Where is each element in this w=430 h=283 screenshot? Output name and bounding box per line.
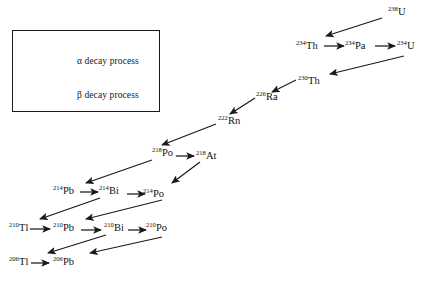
nuclide-symbol-tl206: Tl <box>19 256 29 267</box>
nuclide-symbol-po214: Po <box>153 188 164 199</box>
nuclide-u238: 238U <box>388 7 406 18</box>
nuclide-mass-tl210: 210 <box>9 221 19 228</box>
nuclide-symbol-ra226: Ra <box>266 91 278 102</box>
nuclide-mass-pb206: 206 <box>53 255 63 262</box>
nuclide-po214: 214Po <box>143 189 164 200</box>
decay-arrow-alpha-at218-to-po214 <box>172 162 200 183</box>
decay-chain-diagram: α decay processβ decay process 238U234Th… <box>0 0 430 283</box>
nuclide-symbol-u234: U <box>407 40 415 51</box>
nuclide-symbol-pb214: Pb <box>63 185 74 196</box>
nuclide-tl210: 210Tl <box>9 223 28 234</box>
nuclide-symbol-th234: Th <box>306 40 318 51</box>
legend-label-alpha: α decay process <box>77 56 139 66</box>
nuclide-mass-pb214: 214 <box>53 184 63 191</box>
nuclide-symbol-pa234: Pa <box>355 40 366 51</box>
nuclide-po210: 210Po <box>146 223 167 234</box>
nuclide-mass-th234: 234 <box>296 39 306 46</box>
nuclide-symbol-po218: Po <box>162 147 173 158</box>
nuclide-mass-u234: 234 <box>397 39 407 46</box>
decay-arrow-alpha-bi214-to-tl210 <box>40 198 100 219</box>
nuclide-bi214: 214Bi <box>99 186 119 197</box>
nuclide-pa234: 234Pa <box>345 41 366 52</box>
nuclide-u234: 234U <box>397 41 415 52</box>
nuclide-pb214: 214Pb <box>53 186 74 197</box>
nuclide-mass-th230: 230 <box>298 74 308 81</box>
nuclide-ra226: 226Ra <box>256 92 278 103</box>
nuclide-mass-bi214: 214 <box>99 184 109 191</box>
nuclide-symbol-rn222: Rn <box>228 115 240 126</box>
nuclide-at218: 218At <box>196 151 217 162</box>
nuclide-mass-u238: 238 <box>388 5 398 12</box>
nuclide-symbol-tl210: Tl <box>19 222 29 233</box>
decay-arrow-alpha-bi210-to-tl206 <box>48 235 106 253</box>
decay-arrow-alpha-u234-to-th230 <box>330 56 404 74</box>
nuclide-symbol-po210: Po <box>156 222 167 233</box>
nuclide-symbol-bi210: Bi <box>114 222 124 233</box>
nuclide-mass-po218: 218 <box>152 146 162 153</box>
decay-arrow-alpha-po218-to-pb214 <box>86 160 152 183</box>
nuclide-mass-bi210: 210 <box>104 221 114 228</box>
nuclide-symbol-at218: At <box>206 150 217 161</box>
nuclide-mass-po210: 210 <box>146 221 156 228</box>
nuclide-mass-pa234: 234 <box>345 39 355 46</box>
nuclide-mass-pb210: 210 <box>53 221 63 228</box>
nuclide-tl206: 206Tl <box>9 257 28 268</box>
nuclide-symbol-th230: Th <box>308 75 320 86</box>
nuclide-mass-rn222: 222 <box>218 114 228 121</box>
nuclide-symbol-u238: U <box>398 6 406 17</box>
nuclide-mass-at218: 218 <box>196 149 206 156</box>
nuclide-pb206: 206Pb <box>53 257 74 268</box>
decay-arrow-alpha-po214-to-pb210 <box>86 200 162 219</box>
nuclide-symbol-pb206: Pb <box>63 256 74 267</box>
nuclide-mass-tl206: 206 <box>9 255 19 262</box>
nuclide-rn222: 222Rn <box>218 116 240 127</box>
decay-arrow-alpha-u238-to-th234 <box>326 18 382 36</box>
nuclide-bi210: 210Bi <box>104 223 124 234</box>
decay-arrow-alpha-po210-to-pb206 <box>90 237 162 253</box>
nuclide-symbol-bi214: Bi <box>109 185 119 196</box>
nuclide-th234: 234Th <box>296 41 318 52</box>
decay-arrow-alpha-rn222-to-po218 <box>162 124 216 145</box>
decay-arrow-alpha-ra226-to-rn222 <box>230 98 255 114</box>
legend-label-beta: β decay process <box>77 90 139 100</box>
nuclide-th230: 230Th <box>298 76 320 87</box>
nuclide-mass-ra226: 226 <box>256 90 266 97</box>
nuclide-mass-po214: 214 <box>143 187 153 194</box>
nuclide-po218: 218Po <box>152 148 173 159</box>
nuclide-symbol-pb210: Pb <box>63 222 74 233</box>
nuclide-pb210: 210Pb <box>53 223 74 234</box>
